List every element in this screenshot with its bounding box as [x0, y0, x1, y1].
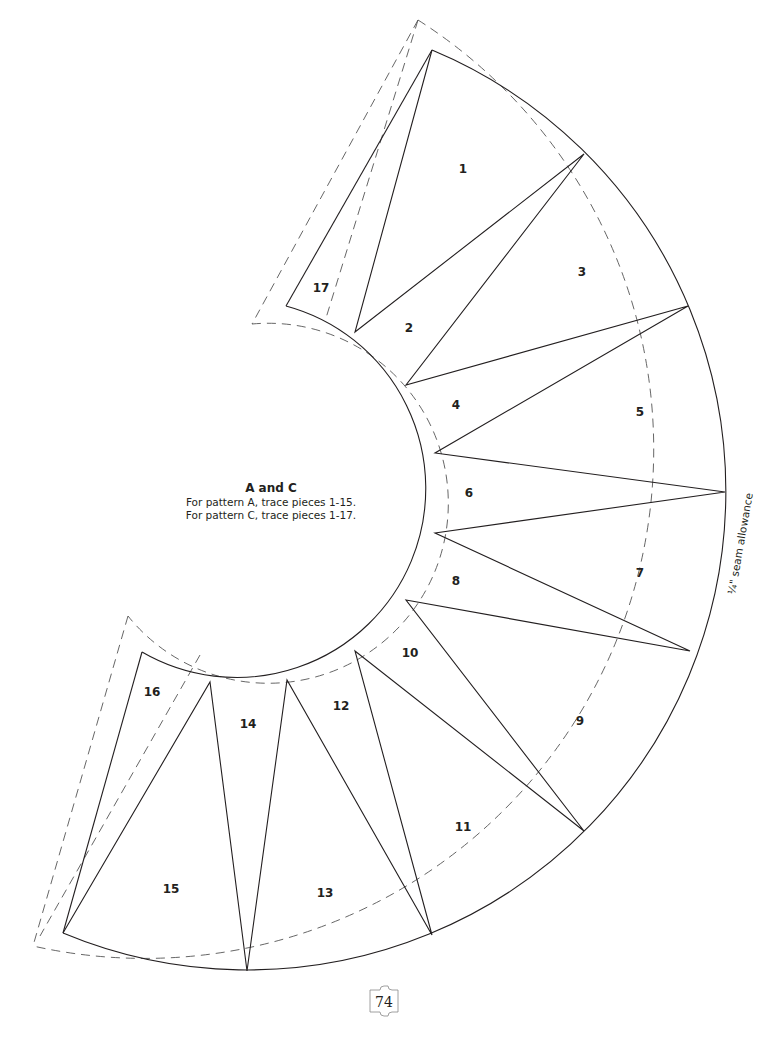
piece-label: 17 [313, 281, 330, 295]
pattern-diagram: 1 2 3 4 5 6 7 8 9 10 11 12 13 14 15 16 1… [0, 0, 765, 1041]
piece-label: 7 [636, 566, 644, 580]
piece-label: 10 [402, 646, 419, 660]
piece-numbers: 1 2 3 4 5 6 7 8 9 10 11 12 13 14 15 16 1… [144, 162, 645, 900]
piece-label: 6 [465, 486, 473, 500]
pattern-instruction-c: For pattern C, trace pieces 1-17. [186, 509, 356, 521]
piece-label: 9 [576, 714, 584, 728]
piece-label: 16 [144, 685, 161, 699]
piece-label: 8 [452, 574, 460, 588]
piece-label: 14 [240, 717, 257, 731]
piece-label: 13 [317, 886, 334, 900]
pattern-instruction-a: For pattern A, trace pieces 1-15. [186, 496, 356, 508]
piece-label: 1 [459, 162, 467, 176]
piece-label: 12 [333, 699, 350, 713]
piece-label: 3 [578, 265, 586, 279]
page-number: 74 [375, 994, 393, 1010]
piece-label: 5 [636, 405, 644, 419]
piece-label: 15 [163, 882, 180, 896]
page-number-badge: 74 [370, 986, 398, 1016]
piece-outline [63, 50, 726, 971]
pattern-title: A and C [245, 481, 297, 495]
piece-label: 11 [455, 820, 472, 834]
pattern-caption: A and C For pattern A, trace pieces 1-15… [186, 481, 356, 521]
piece-label: 4 [452, 398, 460, 412]
seam-allowance-outline [33, 20, 654, 958]
piece-label: 2 [405, 321, 413, 335]
seam-allowance-label: ¼" seam allowance [725, 492, 755, 595]
